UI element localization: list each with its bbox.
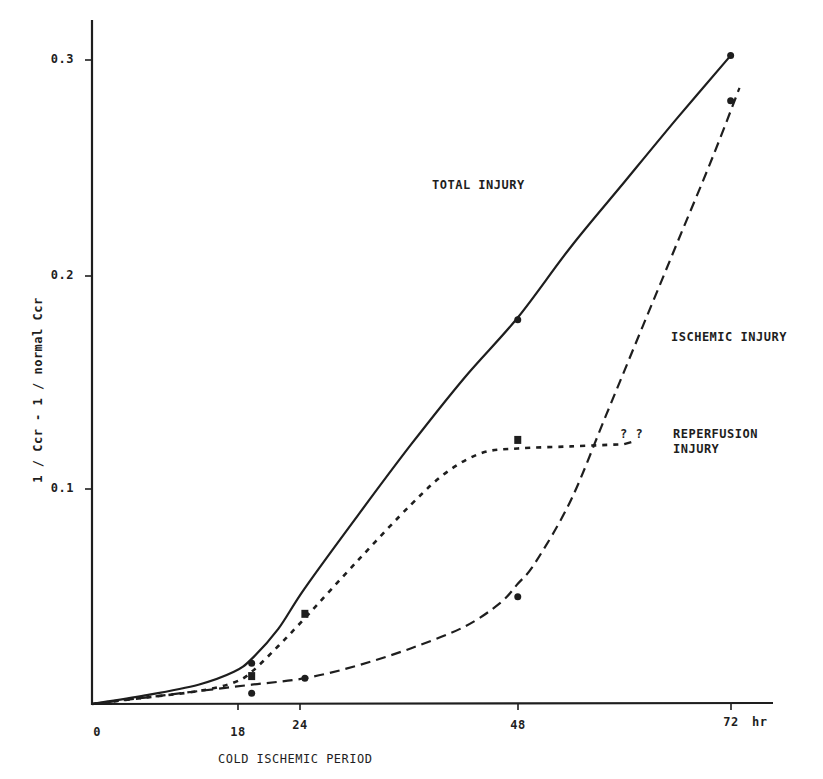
reperfusion-injury-label-line2: INJURY: [673, 442, 719, 456]
data-point-marker: [248, 660, 255, 667]
x-axis-ticks: [238, 704, 731, 710]
x-tick-label: 18: [218, 725, 258, 739]
reperfusion-injury-label-line1: REPERFUSION: [673, 427, 758, 441]
reperfusion-tail-dash: [624, 442, 631, 444]
series-layer: [92, 52, 740, 704]
question-marks-annotation: ? ?: [620, 427, 643, 441]
reperfusion-injury-line: [92, 444, 624, 704]
y-tick-label: 0.3: [34, 52, 74, 66]
x-tick-label: 72: [711, 715, 751, 729]
chart-plot-area: [0, 0, 823, 779]
x-axis-line: [91, 703, 773, 704]
y-tick-label: 0.2: [34, 268, 74, 282]
x-axis-title: COLD ISCHEMIC PERIOD: [218, 752, 373, 766]
x-axis-unit: hr: [752, 715, 767, 729]
total-injury-label: TOTAL INJURY: [432, 178, 525, 192]
ischemic-injury-label: ISCHEMIC INJURY: [671, 330, 787, 344]
total-injury-line: [92, 56, 731, 704]
data-point-marker: [301, 610, 308, 618]
data-point-marker: [514, 316, 521, 323]
data-point-marker: [727, 97, 734, 104]
x-tick-label: 24: [280, 718, 320, 732]
x-tick-label: 0: [77, 725, 117, 739]
data-point-marker: [248, 690, 255, 697]
y-tick-label: 0.1: [34, 481, 74, 495]
x-tick-label: 48: [498, 718, 538, 732]
data-point-marker: [514, 593, 521, 600]
data-point-marker: [514, 436, 521, 444]
data-point-marker: [248, 672, 255, 680]
ischemic-injury-line: [92, 88, 740, 704]
y-axis-title: 1 / Ccr - 1 / normal Ccr: [31, 297, 45, 482]
data-point-marker: [727, 52, 734, 59]
data-point-marker: [301, 675, 308, 682]
